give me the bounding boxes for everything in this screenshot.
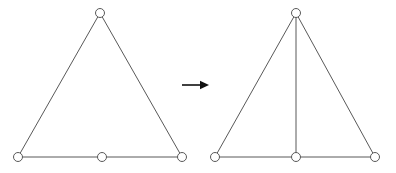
before-graph-edges bbox=[18, 13, 182, 157]
after-graph-edges bbox=[215, 13, 375, 157]
after-graph-nodes bbox=[211, 9, 380, 162]
node-base-left[interactable] bbox=[14, 153, 23, 162]
node-base-right[interactable] bbox=[178, 153, 187, 162]
after-graph bbox=[211, 9, 380, 162]
edge-left-side bbox=[215, 13, 296, 157]
edge-left-side bbox=[18, 13, 100, 157]
transform-arrow-head bbox=[200, 81, 209, 89]
node-base-left[interactable] bbox=[211, 153, 220, 162]
node-apex[interactable] bbox=[96, 9, 105, 18]
edge-right-side bbox=[100, 13, 182, 157]
mesh-refinement-diagram bbox=[0, 0, 396, 173]
node-base-mid[interactable] bbox=[292, 153, 301, 162]
node-apex[interactable] bbox=[292, 9, 301, 18]
node-base-mid[interactable] bbox=[98, 153, 107, 162]
node-base-right[interactable] bbox=[371, 153, 380, 162]
diagram-canvas bbox=[0, 0, 396, 173]
before-graph-nodes bbox=[14, 9, 187, 162]
transform-arrow bbox=[182, 81, 209, 89]
before-graph bbox=[14, 9, 187, 162]
edge-right-side bbox=[296, 13, 375, 157]
